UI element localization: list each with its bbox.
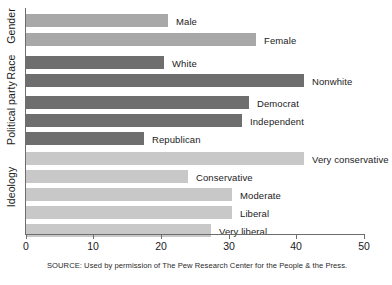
bar-label-female: Female (264, 34, 296, 45)
bar-label-independent: Independent (250, 115, 304, 126)
group-label-gender: Gender (0, 8, 22, 44)
x-tick-10 (93, 234, 94, 239)
bar-nonwhite (26, 74, 304, 87)
bar-label-liberal: Liberal (240, 207, 269, 218)
bar-label-nonwhite: Nonwhite (312, 75, 352, 86)
x-tick-0 (26, 234, 27, 239)
bar-liberal (26, 206, 232, 219)
bar-very-conservative (26, 152, 304, 165)
bar-very-liberal (26, 224, 211, 237)
x-tick-label-40: 40 (290, 240, 302, 252)
x-tick-label-20: 20 (155, 240, 167, 252)
bar-independent (26, 114, 242, 127)
x-axis-line (25, 234, 365, 235)
bar-label-conservative: Conservative (196, 171, 253, 182)
bar-chart: Gender Race Political party Ideology Mal… (0, 0, 392, 285)
bar-conservative (26, 170, 188, 183)
source-note: SOURCE: Used by permission of The Pew Re… (47, 261, 347, 270)
bar-label-democrat: Democrat (257, 97, 299, 108)
bar-label-republican: Republican (152, 133, 201, 144)
bar-republican (26, 132, 144, 145)
bar-label-white: White (172, 57, 197, 68)
group-label-ideology: Ideology (0, 140, 22, 234)
x-tick-label-30: 30 (223, 240, 235, 252)
x-tick-50 (364, 234, 365, 239)
x-tick-label-50: 50 (358, 240, 370, 252)
x-tick-label-10: 10 (87, 240, 99, 252)
plot-area: Male Female White Nonwhite Democrat Inde… (26, 8, 364, 233)
bar-democrat (26, 96, 249, 109)
bar-white (26, 56, 164, 69)
x-tick-30 (229, 234, 230, 239)
x-tick-label-0: 0 (23, 240, 29, 252)
group-label-ideology-text: Ideology (5, 167, 17, 208)
group-label-race-text: Race (5, 55, 17, 80)
group-label-political-party-text: Political party (5, 81, 17, 145)
bar-moderate (26, 188, 232, 201)
bar-label-very-conservative: Very conservative (312, 153, 389, 164)
x-tick-40 (296, 234, 297, 239)
bar-female (26, 33, 256, 46)
group-label-political-party: Political party (0, 86, 22, 140)
x-tick-20 (161, 234, 162, 239)
bar-label-moderate: Moderate (240, 189, 281, 200)
group-label-gender-text: Gender (5, 8, 17, 44)
bar-label-male: Male (176, 15, 197, 26)
bar-male (26, 14, 168, 27)
